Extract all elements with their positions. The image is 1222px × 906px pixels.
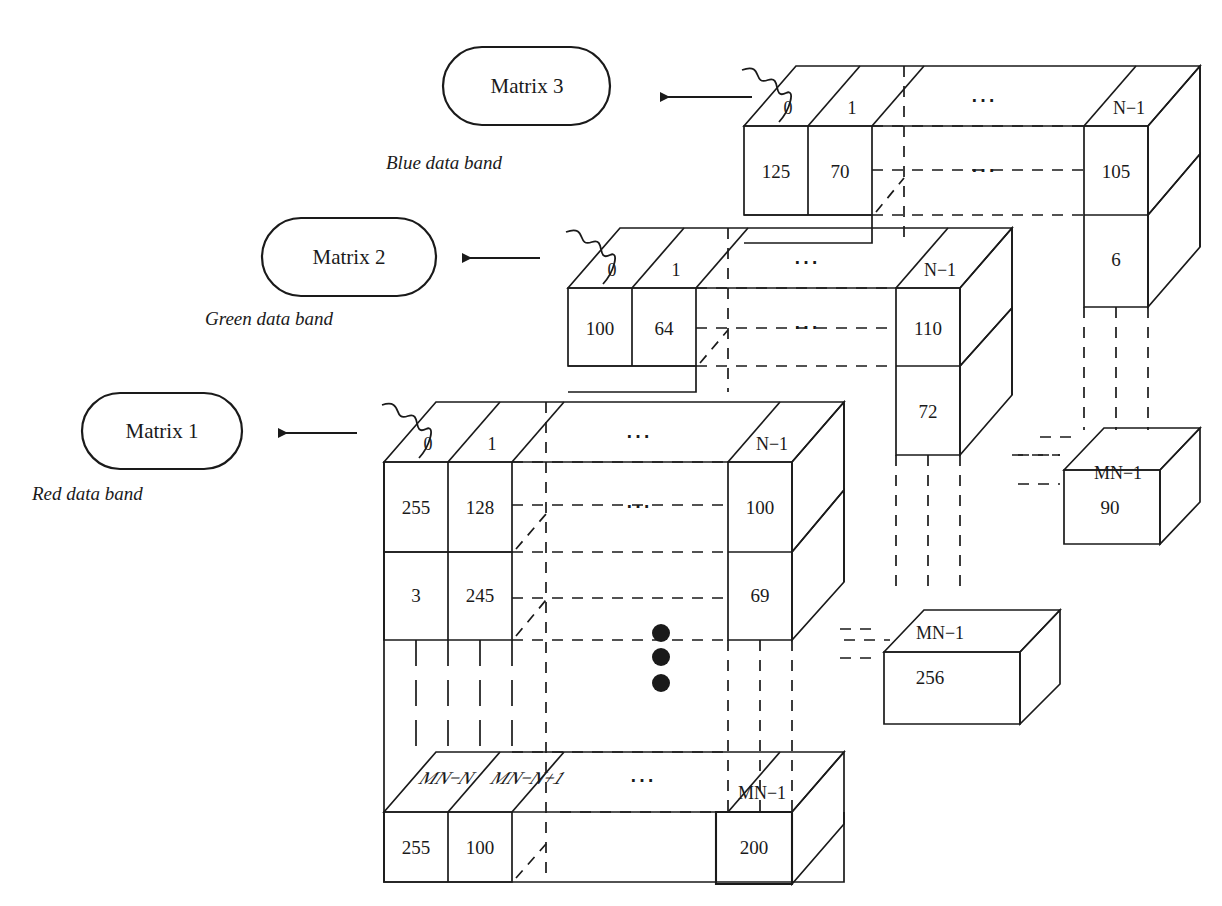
green-top-ellipsis: ⋯ (793, 247, 824, 278)
green-index-0: 0 (608, 260, 617, 281)
red-row1-ellipsis: ⋯ (625, 491, 656, 522)
green-mn-value-256: 256 (916, 667, 945, 689)
green-band-caption: Green data band (205, 308, 333, 330)
blue-mn-value-90: 90 (1101, 497, 1120, 519)
green-index-n-1: N−1 (924, 260, 956, 281)
matrix2-label[interactable]: Matrix 2 (313, 245, 386, 270)
red-index-1: 1 (488, 434, 497, 455)
red-bottom-index-mn-n-plus-1-text: MN−N+1 (485, 768, 570, 789)
red-value-128: 128 (466, 497, 495, 519)
blue-value-70: 70 (831, 161, 850, 183)
green-index-1: 1 (672, 260, 681, 281)
blue-top-ellipsis: ⋯ (970, 85, 1001, 116)
red-value-69: 69 (751, 585, 770, 607)
red-band-caption: Red data band (32, 483, 143, 505)
red-value-100: 100 (746, 497, 775, 519)
blue-value-105: 105 (1102, 161, 1131, 183)
red-value-245: 245 (466, 585, 495, 607)
green-mn-box (884, 610, 1060, 724)
red-bottom-index-mn-n-plus-1: MN−N+1 (492, 768, 563, 789)
red-top-ellipsis: ⋯ (625, 421, 656, 452)
green-value-64: 64 (655, 318, 674, 340)
red-bottom-index-mn-1: MN−1 (738, 783, 786, 804)
red-bottom-value-100: 100 (466, 837, 495, 859)
green-mn-index: MN−1 (916, 623, 964, 644)
red-band-cube (82, 393, 890, 884)
matrix1-label[interactable]: Matrix 1 (126, 419, 199, 444)
red-bottom-index-mn-n-text: MN−N (414, 768, 480, 789)
green-value-110: 110 (914, 318, 942, 340)
red-bottom-ellipsis: ⋯ (629, 765, 660, 796)
red-index-n-1: N−1 (756, 434, 788, 455)
blue-mn-index: MN−1 (1094, 463, 1142, 484)
blue-mn-box (1064, 428, 1200, 544)
matrix3-label[interactable]: Matrix 3 (491, 74, 564, 99)
blue-index-1: 1 (848, 98, 857, 119)
diagram-vector-layer (0, 0, 1222, 906)
red-index-0: 0 (424, 434, 433, 455)
green-value-100: 100 (586, 318, 615, 340)
blue-index-0: 0 (784, 98, 793, 119)
green-value-72: 72 (919, 401, 938, 423)
red-value-3: 3 (411, 585, 421, 607)
blue-row-ellipsis: ⋯ (970, 155, 1001, 186)
red-bottom-value-255: 255 (402, 837, 431, 859)
blue-value-6: 6 (1111, 249, 1121, 271)
vertical-dot-2 (652, 648, 670, 666)
blue-index-n-1: N−1 (1113, 98, 1145, 119)
vertical-dot-1 (652, 624, 670, 642)
blue-band-caption: Blue data band (386, 152, 502, 174)
red-bottom-value-200: 200 (740, 837, 769, 859)
blue-value-125: 125 (762, 161, 791, 183)
red-bottom-index-mn-n: MN−N (421, 768, 473, 789)
figure-canvas: Matrix 3 Matrix 2 Matrix 1 Blue data ban… (0, 0, 1222, 906)
green-row-ellipsis: ⋯ (793, 312, 824, 343)
blue-band-cube (443, 47, 1200, 437)
vertical-dot-3 (652, 674, 670, 692)
red-value-255: 255 (402, 497, 431, 519)
